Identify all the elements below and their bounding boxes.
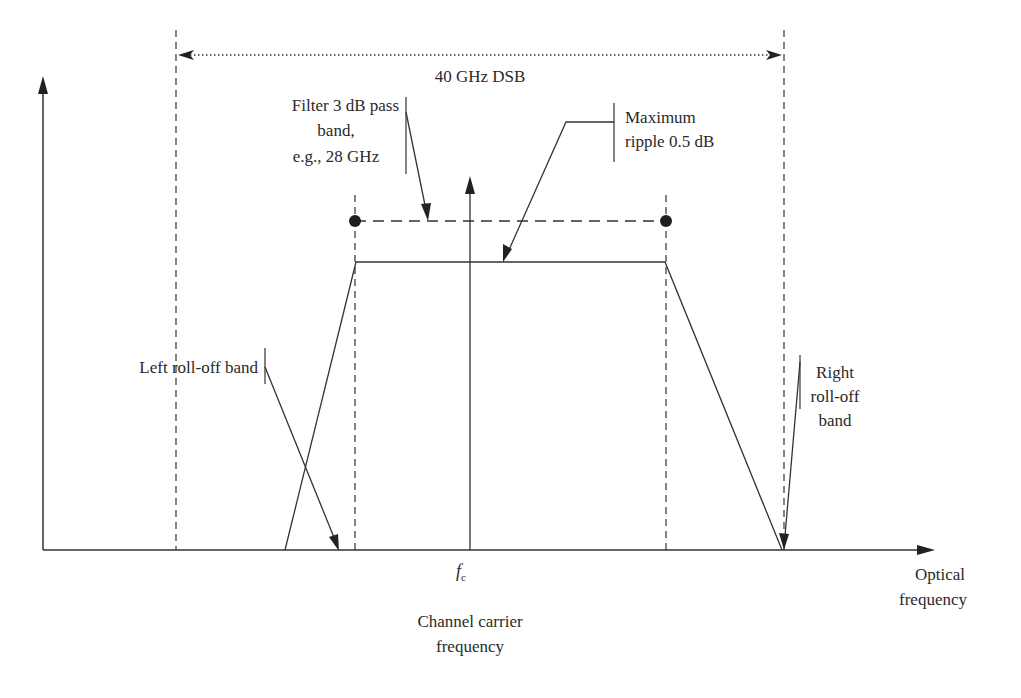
filter-diagram: 40 GHz DSB Filter 3 dB pass band, e.g., … (0, 0, 1021, 698)
right-rolloff-leader-line (785, 362, 800, 536)
dsb-span-right-arrowhead (766, 50, 782, 60)
y-axis-arrowhead (38, 76, 48, 94)
ripple-label-line2: ripple 0.5 dB (625, 132, 714, 151)
passband-leader-arrowhead (421, 203, 431, 221)
passband-label-line1: Filter 3 dB pass (292, 96, 399, 115)
passband-leader-line (406, 112, 426, 210)
right-rolloff-label-line3: band (818, 411, 852, 430)
ripple-leader-line (508, 122, 614, 252)
passband-label-line3: e.g., 28 GHz (293, 147, 380, 166)
x-axis-label-line1: Optical (915, 565, 965, 584)
right-rolloff-label-line2: roll-off (811, 387, 860, 406)
dsb-span-label: 40 GHz DSB (435, 67, 526, 86)
left-rolloff-label: Left roll-off band (139, 358, 258, 377)
carrier-symbol: fc (456, 561, 466, 583)
passband-left-marker (349, 215, 361, 227)
x-axis-label-line2: frequency (899, 590, 967, 609)
carrier-label-line2: frequency (436, 637, 504, 656)
x-axis-arrowhead (917, 545, 935, 555)
left-rolloff-leader-line (265, 367, 335, 540)
left-rolloff-leader-arrowhead (329, 534, 339, 551)
carrier-arrowhead (465, 176, 475, 194)
right-rolloff-label-line1: Right (816, 363, 854, 382)
filter-response-curve (285, 262, 782, 550)
passband-right-marker (660, 215, 672, 227)
ripple-label-line1: Maximum (625, 108, 696, 127)
dsb-span-left-arrowhead (178, 50, 194, 60)
carrier-symbol-subscript: c (461, 571, 466, 583)
passband-label-line2: band, (317, 121, 354, 140)
carrier-label-line1: Channel carrier (417, 612, 523, 631)
